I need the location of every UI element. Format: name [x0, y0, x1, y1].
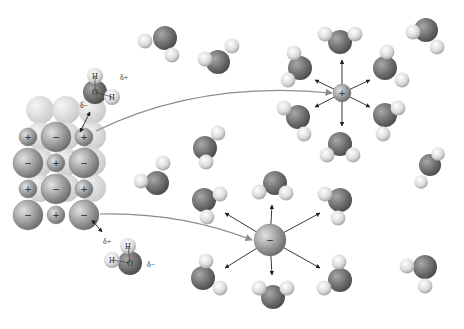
hydrogen-atom — [213, 187, 228, 202]
plus-sign: + — [80, 132, 88, 142]
free-water-molecule — [138, 26, 180, 62]
hydrogen-atom — [213, 281, 228, 296]
oxygen-atom — [191, 266, 215, 290]
plus-sign: + — [24, 184, 32, 194]
plus-sign: + — [80, 184, 88, 194]
minus-sign: − — [80, 158, 88, 168]
oxygen-label: O — [127, 259, 133, 268]
hydrogen-atom — [156, 156, 171, 171]
hydrogen-atom — [318, 187, 333, 202]
minus-sign: − — [52, 184, 60, 194]
oxygen-atom — [153, 26, 177, 50]
plus-sign: + — [52, 210, 60, 220]
hydrogen-atom — [252, 185, 267, 200]
free-water-molecule — [134, 156, 171, 195]
oxygen-label: O — [92, 88, 98, 97]
anion-shell-water — [252, 281, 295, 309]
oxygen-atom — [328, 268, 352, 292]
hydrogen-atom — [134, 174, 149, 189]
hydrogen-atom — [431, 147, 445, 161]
delta-plus-label: δ+ — [120, 73, 129, 82]
anion-shell-water — [192, 187, 227, 225]
crystal-back-sphere — [26, 96, 54, 124]
ionic-crystal: +−+−+−+−+−+− — [13, 122, 99, 230]
hydrated-ions: +− — [225, 60, 370, 275]
hydrogen-atom — [391, 101, 406, 116]
anion-transfer-arrow — [100, 214, 252, 240]
hydrogen-atom — [395, 73, 410, 88]
water-bottom: OHHδ+δ− — [103, 237, 156, 275]
minus-sign: − — [52, 132, 60, 142]
cation-shell-water — [373, 45, 409, 88]
minus-sign: − — [24, 158, 32, 168]
anion-shell-water — [317, 255, 352, 296]
free-water-molecule — [198, 39, 240, 74]
delta-plus-label: δ+ — [103, 237, 112, 246]
hydrogen-atom — [138, 34, 153, 49]
hydrated-cation-sign: + — [338, 88, 346, 98]
minus-sign: − — [24, 210, 32, 220]
hydrogen-atom — [414, 175, 428, 189]
hydrogen-atom — [406, 25, 421, 40]
oxygen-atom — [373, 56, 397, 80]
hydrogen-atom — [198, 52, 213, 67]
hydrogen-label: H — [92, 72, 98, 81]
hydrogen-atom — [165, 48, 180, 63]
hydrogen-label: H — [109, 256, 115, 265]
hydrogen-atom — [199, 155, 214, 170]
hydrogen-atom — [225, 39, 240, 54]
cation-shell-water — [318, 27, 363, 54]
water-molecules — [134, 18, 445, 309]
oxygen-atom — [145, 171, 169, 195]
cation-shell-water — [373, 101, 405, 142]
hydrogen-atom — [252, 281, 267, 296]
hydrogen-atom — [200, 210, 215, 225]
anion-shell-water — [252, 171, 294, 200]
hydrogen-atom — [317, 281, 332, 296]
anion-shell-water — [191, 254, 227, 296]
hydrogen-atom — [331, 211, 346, 226]
hydrogen-label: H — [125, 242, 131, 251]
hydrogen-atom — [211, 126, 226, 141]
diagram-canvas: +−+−+−+−+−+− +− OHHδ+δ−OHHδ+δ− — [0, 0, 464, 329]
free-water-molecule — [406, 18, 445, 54]
ionic-dissolution-diagram: +−+−+−+−+−+− +− OHHδ+δ−OHHδ+δ− — [0, 0, 464, 329]
anion-shell-water — [318, 187, 352, 226]
hydrogen-atom — [279, 186, 294, 201]
hydrated-anion-sign: − — [266, 235, 274, 245]
plus-sign: + — [24, 132, 32, 142]
hydrogen-atom — [297, 127, 312, 142]
oxygen-atom — [192, 188, 216, 212]
hydrogen-atom — [332, 255, 347, 270]
free-water-molecule — [193, 126, 225, 170]
hydrogen-atom — [277, 101, 292, 116]
hydrogen-atom — [400, 259, 415, 274]
hydrogen-atom — [320, 148, 335, 163]
cation-shell-water — [281, 46, 312, 88]
oxygen-atom — [413, 255, 437, 279]
hydrogen-atom — [318, 27, 333, 42]
hydrogen-atom — [346, 148, 361, 163]
free-water-molecule — [400, 255, 437, 293]
hydrogen-atom — [376, 127, 391, 142]
free-water-molecule — [414, 147, 445, 189]
hydrogen-atom — [430, 40, 445, 55]
hydrogen-atom — [287, 46, 302, 61]
plus-sign: + — [52, 158, 60, 168]
hydrogen-atom — [281, 73, 296, 88]
delta-minus-label: δ− — [80, 101, 89, 110]
delta-minus-label: δ− — [147, 260, 156, 269]
crystal-back-sphere — [52, 96, 80, 124]
hydrogen-atom — [199, 254, 214, 269]
hydrogen-atom — [280, 281, 295, 296]
hydrogen-atom — [418, 279, 433, 294]
minus-sign: − — [80, 210, 88, 220]
hydrogen-atom — [380, 45, 395, 60]
cation-shell-water — [277, 101, 312, 142]
hydrogen-atom — [348, 27, 363, 42]
cation-shell-water — [320, 132, 361, 162]
hydrogen-label: H — [109, 93, 115, 102]
